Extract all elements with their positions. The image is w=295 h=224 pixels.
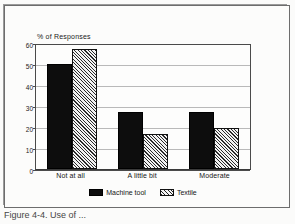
y-tick-label: 10	[26, 147, 33, 154]
bar-machine-tool[interactable]	[47, 64, 72, 169]
x-axis-labels: Not at allA little bitModerate	[35, 172, 251, 179]
bar-machine-tool[interactable]	[118, 112, 143, 169]
y-tick-mark	[33, 170, 36, 171]
y-tick-label: 60	[26, 42, 33, 49]
x-axis-label-1: A little bit	[128, 172, 157, 179]
legend-item-textile[interactable]: Textile	[160, 189, 197, 196]
y-tick-label: 0	[29, 168, 33, 175]
gridline	[36, 170, 250, 171]
plot-area: 0102030405060	[35, 44, 251, 170]
y-tick-label: 40	[26, 84, 33, 91]
bar-textile[interactable]	[143, 134, 168, 169]
y-tick-label: 50	[26, 63, 33, 70]
x-axis-label-2: Moderate	[199, 172, 229, 179]
y-tick-label: 30	[26, 105, 33, 112]
figure-caption-clipped: Figure 4-4. Use of ...	[4, 211, 290, 224]
bar-group	[189, 45, 239, 169]
legend-swatch-machine-tool	[89, 189, 103, 196]
y-tick-label: 20	[26, 126, 33, 133]
bar-group	[47, 45, 97, 169]
y-axis-label: % of Responses	[37, 33, 91, 40]
bar-groups	[36, 45, 250, 169]
legend-label: Machine tool	[106, 189, 146, 196]
bar-textile[interactable]	[72, 49, 97, 169]
bar-chart: % of Responses 0102030405060 Not at allA…	[4, 5, 290, 208]
bar-group	[118, 45, 168, 169]
caption-text: Figure 4-4. Use of ...	[4, 211, 86, 220]
bar-textile[interactable]	[214, 128, 239, 169]
legend-item-machine-tool[interactable]: Machine tool	[89, 189, 146, 196]
x-axis-label-0: Not at all	[56, 172, 85, 179]
legend-label: Textile	[177, 189, 197, 196]
bar-machine-tool[interactable]	[189, 112, 214, 169]
legend-swatch-textile	[160, 189, 174, 196]
chart-legend: Machine toolTextile	[35, 189, 251, 196]
scanned-page: % of Responses 0102030405060 Not at allA…	[0, 0, 295, 224]
